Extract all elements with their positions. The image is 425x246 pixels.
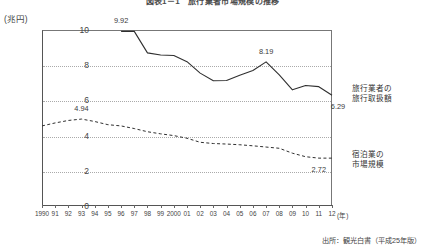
x-axis-tick-label: 06 bbox=[249, 210, 256, 217]
x-axis-unit-label: (年) bbox=[337, 210, 348, 220]
x-axis-tick-label: 95 bbox=[104, 210, 111, 217]
x-axis-tick-label: 12 bbox=[328, 210, 335, 217]
legend-series-accommodation: 宿泊業の 市場規模 bbox=[352, 150, 384, 170]
x-axis-tick-label: 08 bbox=[276, 210, 283, 217]
legend-series1-line2: 旅行取扱額 bbox=[352, 94, 392, 104]
x-axis-tick-label: 91 bbox=[52, 210, 59, 217]
data-point-label: 8.19 bbox=[259, 46, 273, 55]
legend-series1-line1: 旅行業者の bbox=[352, 84, 392, 94]
chart-figure: 図表1－1 旅行業者市場規模の推移 (兆円) 0246810 199091929… bbox=[0, 0, 425, 246]
x-axis-tick-label: 97 bbox=[131, 210, 138, 217]
x-axis-tick-label: 94 bbox=[91, 210, 98, 217]
x-axis-tick-label: 99 bbox=[157, 210, 164, 217]
legend-series2-line1: 宿泊業の bbox=[352, 150, 384, 160]
x-axis-tick-label: 03 bbox=[210, 210, 217, 217]
x-axis-tick-label: 04 bbox=[223, 210, 230, 217]
y-axis-unit-label: (兆円) bbox=[4, 12, 28, 24]
x-axis-tick-mark bbox=[332, 205, 333, 208]
x-axis-tick-label: 2000 bbox=[167, 210, 181, 217]
x-axis-tick-label: 10 bbox=[302, 210, 309, 217]
data-point-label: 6.29 bbox=[331, 102, 345, 111]
x-axis-tick-label: 93 bbox=[78, 210, 85, 217]
series-lines bbox=[42, 30, 332, 206]
x-axis-tick-label: 05 bbox=[236, 210, 243, 217]
x-axis-tick-label: 02 bbox=[197, 210, 204, 217]
data-point-label: 2.72 bbox=[312, 165, 326, 174]
x-axis-tick-label: 1990 bbox=[35, 210, 49, 217]
x-axis-tick-label: 96 bbox=[118, 210, 125, 217]
series-line-1 bbox=[121, 31, 332, 95]
x-axis-tick-label: 98 bbox=[144, 210, 151, 217]
x-axis-tick-label: 01 bbox=[183, 210, 190, 217]
x-axis-tick-label: 11 bbox=[315, 210, 322, 217]
page-title: 図表1－1 旅行業者市場規模の推移 bbox=[0, 0, 425, 6]
data-point-label: 4.94 bbox=[74, 104, 88, 113]
legend-series-travel-agency: 旅行業者の 旅行取扱額 bbox=[352, 84, 392, 104]
series-line-2 bbox=[42, 119, 332, 158]
x-axis-tick-label: 92 bbox=[65, 210, 72, 217]
data-point-label: 9.92 bbox=[114, 16, 128, 25]
legend-series2-line2: 市場規模 bbox=[352, 160, 384, 170]
x-axis-tick-label: 09 bbox=[289, 210, 296, 217]
source-note: 出所：観光白書（平成25年版） bbox=[322, 235, 421, 245]
x-axis-tick-label: 07 bbox=[263, 210, 270, 217]
